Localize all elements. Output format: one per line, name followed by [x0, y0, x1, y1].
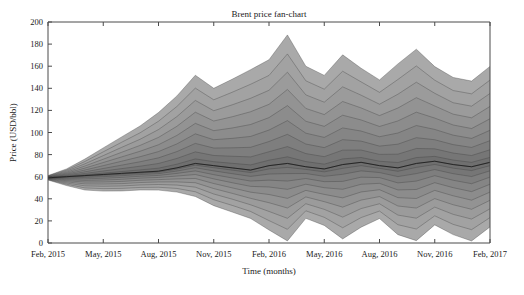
x-tick-label: Feb, 2016	[252, 249, 286, 259]
y-tick-label: 60	[35, 172, 44, 182]
y-tick-label: 180	[30, 39, 43, 49]
y-tick-label: 140	[30, 83, 43, 93]
chart-title: Brent price fan-chart	[232, 9, 307, 19]
x-tick-label: Aug, 2015	[141, 249, 177, 259]
x-tick-label: May, 2016	[306, 249, 342, 259]
y-axis-label: Price (USD/bbl)	[8, 103, 18, 162]
y-tick-label: 120	[30, 105, 43, 115]
brent-price-fan-chart-figure: 020406080100120140160180200Feb, 2015May,…	[0, 0, 524, 295]
x-tick-label: Feb, 2017	[473, 249, 507, 259]
x-tick-label: Nov, 2015	[196, 249, 231, 259]
x-tick-label: Nov, 2016	[417, 249, 452, 259]
y-tick-label: 160	[30, 61, 43, 71]
y-tick-label: 20	[35, 216, 44, 226]
y-tick-label: 0	[39, 238, 43, 248]
x-tick-label: Aug, 2016	[362, 249, 398, 259]
y-tick-label: 200	[30, 17, 43, 27]
y-tick-label: 40	[35, 194, 44, 204]
y-tick-label: 100	[30, 128, 43, 138]
x-tick-label: Feb, 2015	[31, 249, 65, 259]
x-axis-label: Time (months)	[242, 266, 295, 276]
y-tick-label: 80	[35, 150, 44, 160]
x-tick-label: May, 2015	[85, 249, 121, 259]
chart-canvas: 020406080100120140160180200Feb, 2015May,…	[0, 0, 524, 295]
